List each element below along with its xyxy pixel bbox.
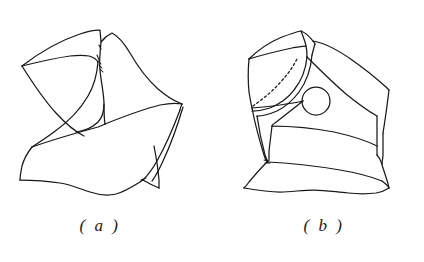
panel-b-left-facet-left-edge (248, 59, 252, 108)
panel-a-right-upper-edge (180, 104, 182, 110)
panel-b-leg-junction-tick-1 (264, 160, 269, 161)
panel-b-base-bottom-break-edge (244, 188, 389, 194)
caption-panel-a: ( a ) (0, 216, 200, 236)
panel-a-wedge-outer-edge (152, 107, 183, 181)
panel-b-right-panel-edge-outer (382, 133, 383, 164)
panel-b-hidden-dashed-curve (253, 59, 297, 106)
panel-b-circular-hole (302, 87, 330, 115)
panel-b-right-panel-base (377, 155, 382, 164)
panel-b-left-leg-inner-edge (257, 116, 268, 162)
panel-a-tick-mark-1 (97, 55, 99, 60)
panel-a-drawing (20, 30, 183, 195)
panel-b-band-top-edge (272, 126, 377, 146)
figure-root: ( a ) ( b ) (0, 0, 424, 262)
panel-a-broad-facet-edge (105, 103, 182, 124)
panel-b-crest-notch-left (301, 31, 307, 57)
panel-b-top-ridge (249, 31, 315, 59)
panel-a-wedge-base (143, 180, 159, 188)
panel-a-notch-upper-curve (22, 55, 98, 66)
panel-b-drawing (244, 31, 389, 194)
panel-a-bottom-break-edge (20, 180, 143, 195)
panel-a-lower-facet-sweep (32, 124, 105, 147)
panel-a-ridge-facet-edge (104, 104, 105, 124)
panel-b-crest-notch-right (312, 44, 315, 55)
panel-b-base-left-edge (244, 162, 267, 188)
panel-b-right-upper-contour (313, 41, 389, 90)
panel-b-band-bottom-edge (267, 162, 382, 181)
panel-a-wedge-right-edge (154, 146, 159, 188)
panel-b-right-flank (383, 90, 389, 133)
caption-panel-b: ( b ) (224, 216, 424, 236)
panel-a-inner-sweep-curve (32, 62, 98, 147)
panel-b-left-facet-top-edge (249, 46, 306, 59)
figure-captions: ( a ) ( b ) (0, 206, 424, 246)
panel-a-notch-lower-lip (22, 66, 84, 136)
panel-a-lower-left-edge (20, 147, 32, 180)
panel-b-band-left-edge (269, 126, 272, 160)
panel-a-wedge-inner-edge (143, 110, 180, 180)
panel-a-outer-contour (22, 30, 182, 104)
